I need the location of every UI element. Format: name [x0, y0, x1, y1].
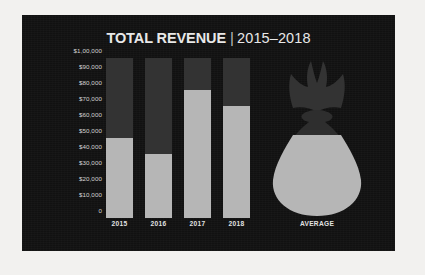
y-axis-tick-0: 0	[44, 208, 102, 214]
bar-2018[interactable]	[223, 58, 250, 218]
chart-title: TOTAL REVENUE|2015–2018	[22, 30, 395, 46]
bar-fill-2017	[184, 90, 211, 218]
plot-area	[105, 58, 362, 218]
y-axis: $1,00,000 $90,000 $80,000 $70,000 $60,00…	[44, 51, 102, 225]
bar-fill-2016	[145, 154, 172, 218]
y-axis-tick-30000: $30,000	[44, 160, 102, 166]
y-axis-tick-20000: $20,000	[44, 176, 102, 182]
y-axis-tick-60000: $60,000	[44, 112, 102, 118]
x-axis: 2015 2016 2017 2018 AVERAGE	[105, 221, 385, 233]
x-axis-label-2015: 2015	[99, 221, 140, 228]
x-axis-label-2016: 2016	[138, 221, 179, 228]
bar-fill-2015	[106, 138, 133, 218]
bar-2017[interactable]	[184, 58, 211, 218]
chart-panel: TOTAL REVENUE|2015–2018 $1,00,000 $90,00…	[22, 15, 395, 251]
y-axis-tick-80000: $80,000	[44, 80, 102, 86]
money-bag-body-fill	[273, 135, 361, 216]
chart-title-years: 2015–2018	[237, 30, 310, 46]
bar-2015[interactable]	[106, 58, 133, 218]
x-axis-label-average: AVERAGE	[262, 221, 372, 228]
chart-title-separator: |	[230, 29, 234, 46]
y-axis-tick-90000: $90,000	[44, 64, 102, 70]
y-axis-tick-100000: $1,00,000	[44, 48, 102, 54]
y-axis-tick-50000: $50,000	[44, 128, 102, 134]
y-axis-tick-10000: $10,000	[44, 192, 102, 198]
y-axis-tick-40000: $40,000	[44, 144, 102, 150]
bar-fill-2018	[223, 106, 250, 218]
bar-2016[interactable]	[145, 58, 172, 218]
money-bag-graphic[interactable]	[271, 56, 363, 218]
y-axis-tick-70000: $70,000	[44, 96, 102, 102]
screenshot-root: TOTAL REVENUE|2015–2018 $1,00,000 $90,00…	[0, 0, 425, 275]
chart-title-main: TOTAL REVENUE	[106, 30, 226, 46]
x-axis-label-2018: 2018	[216, 221, 257, 228]
money-bag-neck-icon	[289, 61, 344, 112]
x-axis-label-2017: 2017	[177, 221, 218, 228]
